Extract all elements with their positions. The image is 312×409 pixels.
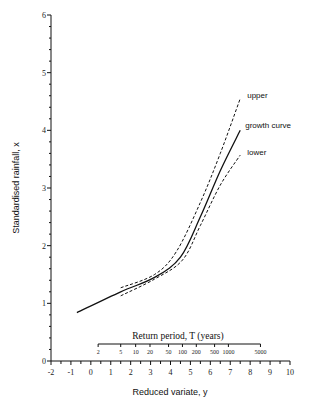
y-tick-label: 0 <box>42 357 46 366</box>
series-growth-curve <box>77 130 240 312</box>
y-axis-title: Standardised rainfall, x <box>11 142 21 234</box>
x-tick-label: 1 <box>109 368 113 377</box>
return-period-axis: 2510205010020050010005000 <box>97 344 267 355</box>
x-tick-label: -2 <box>48 368 55 377</box>
y-tick-label: 6 <box>42 11 46 20</box>
return-period-tick-label: 10 <box>133 349 139 355</box>
series-label-lower: lower <box>247 148 266 157</box>
x-tick-label: 3 <box>149 368 153 377</box>
x-tick-label: 0 <box>89 368 93 377</box>
series-label-upper: upper <box>247 91 268 100</box>
return-period-tick-label: 200 <box>192 349 201 355</box>
x-tick-label: 10 <box>286 368 294 377</box>
x-axis-title: Reduced variate, y <box>132 387 208 397</box>
return-period-tick-label: 100 <box>178 349 187 355</box>
return-period-tick-label: 1000 <box>222 349 234 355</box>
return-period-tick-label: 5 <box>119 349 122 355</box>
y-tick-label: 3 <box>42 184 46 193</box>
growth-curve-chart: 0123456 -2-1012345678910 251020501002005… <box>0 0 312 409</box>
y-tick-label: 5 <box>42 69 46 78</box>
y-axis: 0123456 <box>42 11 51 366</box>
return-period-title: Return period, T (years) <box>132 331 223 342</box>
x-tick-label: 4 <box>169 368 173 377</box>
x-axis: -2-1012345678910 <box>48 361 294 377</box>
y-tick-label: 1 <box>42 299 46 308</box>
return-period-tick-label: 2 <box>97 349 100 355</box>
series-upper <box>121 99 240 288</box>
x-tick-label: 9 <box>268 368 272 377</box>
return-period-tick-label: 5000 <box>254 349 266 355</box>
return-period-tick-label: 20 <box>147 349 153 355</box>
x-tick-label: 7 <box>228 368 232 377</box>
series-label-growth-curve: growth curve <box>245 121 291 130</box>
x-tick-label: 6 <box>208 368 212 377</box>
y-tick-label: 4 <box>42 126 46 135</box>
x-tick-label: 8 <box>248 368 252 377</box>
x-tick-label: 2 <box>129 368 133 377</box>
y-tick-label: 2 <box>42 242 46 251</box>
series-lines <box>77 99 240 313</box>
x-tick-label: -1 <box>68 368 75 377</box>
series-lower <box>121 155 240 296</box>
return-period-tick-label: 50 <box>166 349 172 355</box>
x-tick-label: 5 <box>188 368 192 377</box>
series-labels: growth curveupperlower <box>245 91 291 158</box>
return-period-tick-label: 500 <box>210 349 219 355</box>
